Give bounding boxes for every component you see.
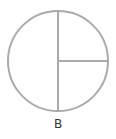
figure-label: B [0, 117, 116, 131]
fraction-circle-figure: B [0, 0, 116, 139]
